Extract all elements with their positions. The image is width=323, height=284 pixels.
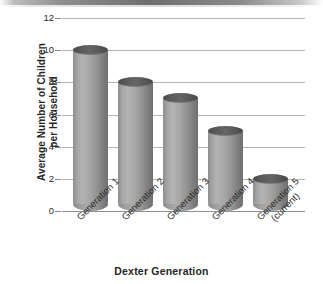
x-axis-title: Dexter Generation [0,265,323,277]
y-tick-label-4: 4 [28,142,54,151]
y-tick-label-6: 6 [28,110,54,119]
y-tick-label-0: 0 [28,206,54,215]
y-tick-6 [55,115,61,116]
y-tick-2 [55,179,61,180]
y-tick-label-2: 2 [28,174,54,183]
bar-top-ellipse [208,126,243,136]
gridline-12 [62,18,305,19]
y-tick-8 [55,82,61,83]
y-tick-12 [55,18,61,19]
bar-chart: Average Number of Children per Household… [0,0,323,284]
plot-area: 024681012 [62,18,305,211]
y-tick-4 [55,147,61,148]
y-tick-label-8: 8 [28,77,54,86]
y-tick-0 [55,211,61,212]
y-tick-label-12: 12 [28,13,54,22]
y-tick-10 [55,50,61,51]
y-tick-label-10: 10 [28,45,54,54]
